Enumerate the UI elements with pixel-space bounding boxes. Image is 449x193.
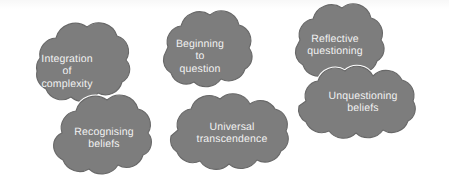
cloud-recognising-beliefs	[54, 95, 152, 174]
cloud-diagram-svg	[0, 0, 449, 193]
diagram-canvas: Integration of complexity Beginning to q…	[0, 0, 449, 193]
cloud-beginning-to-question	[163, 11, 252, 87]
cloud-unquestioning-beliefs	[299, 66, 416, 138]
cloud-integration-of-complexity	[37, 23, 130, 102]
cloud-universal-transcendence	[170, 94, 288, 170]
